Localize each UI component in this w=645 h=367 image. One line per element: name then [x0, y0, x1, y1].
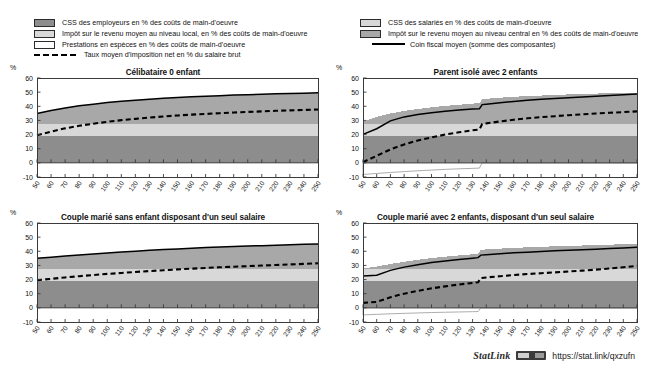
y-tick-label: 0: [355, 159, 359, 166]
x-tick-label: 110: [113, 324, 125, 337]
y-tick-label: -10: [349, 319, 359, 326]
x-tick-label: 190: [225, 179, 237, 192]
legend-label: Coin fiscal moyen (somme des composantes…: [410, 40, 645, 49]
panel-title: Couple marié avec 2 enfants, disposant d…: [326, 213, 645, 222]
x-tick-label: 200: [240, 179, 252, 192]
x-tick-label: 160: [183, 179, 195, 192]
x-tick-label: 160: [505, 324, 517, 337]
x-tick-label: 100: [423, 179, 435, 192]
y-tick-label: 40: [351, 248, 359, 255]
statlink-url[interactable]: https://stat.link/qxzufn: [552, 351, 635, 361]
y-tick-label: 20: [25, 276, 33, 283]
x-tick-label: 110: [113, 179, 125, 192]
x-tick-label: 80: [398, 179, 408, 189]
legend-item-net-tax-rate: Taux moyen d'imposition net en % du sala…: [34, 50, 334, 59]
x-tick-label: 120: [451, 179, 463, 192]
x-tick-label: 240: [615, 179, 627, 192]
x-tick-label: 140: [155, 179, 167, 192]
y-tick-label: 40: [25, 103, 33, 110]
x-tick-label: 170: [519, 324, 531, 337]
y-tick-label: 50: [25, 89, 33, 96]
x-tick-label: 130: [464, 324, 476, 337]
x-tick-label: 200: [240, 324, 252, 337]
y-tick-label: 20: [25, 131, 33, 138]
x-tick-label: 190: [225, 324, 237, 337]
x-tick-label: 170: [197, 179, 209, 192]
x-tick-label: 250: [629, 324, 641, 337]
x-tick-label: 140: [478, 324, 490, 337]
x-tick-label: 150: [492, 179, 504, 192]
panel-couple-marie-sans-enfant: % Couple marié sans enfant disposant d'u…: [0, 207, 326, 352]
x-tick-label: 180: [211, 179, 223, 192]
x-tick-label: 210: [254, 324, 266, 337]
y-tick-label: 30: [25, 262, 33, 269]
x-tick-label: 120: [451, 324, 463, 337]
x-tick-label: 60: [371, 179, 381, 189]
x-tick-label: 110: [437, 179, 449, 192]
x-tick-label: 150: [492, 324, 504, 337]
x-tick-label: 250: [310, 324, 322, 337]
panel-title: Parent isolé avec 2 enfants: [326, 68, 645, 77]
x-tick-label: 90: [87, 324, 97, 334]
x-tick-label: 220: [588, 179, 600, 192]
light-gray-swatch-icon: [360, 19, 381, 27]
x-tick-label: 230: [282, 324, 294, 337]
x-tick-label: 60: [45, 179, 55, 189]
x-tick-label: 50: [31, 324, 41, 334]
x-tick-label: 80: [73, 324, 83, 334]
chart-page: CSS des employeurs en % des coûts de mai…: [0, 0, 645, 367]
x-tick-label: 130: [464, 179, 476, 192]
area-band: [363, 269, 637, 281]
x-tick-label: 160: [505, 179, 517, 192]
y-tick-label: 50: [351, 89, 359, 96]
x-tick-label: 110: [437, 324, 449, 337]
x-tick-label: 160: [183, 324, 195, 337]
chart-svg: 6050403020100-10506070809010011012013014…: [0, 207, 326, 352]
x-tick-label: 140: [478, 179, 490, 192]
x-tick-label: 240: [296, 179, 308, 192]
statlink-label: StatLink: [473, 350, 510, 361]
x-tick-label: 90: [412, 179, 422, 189]
legend-item-employer-ssc: CSS des employeurs en % des coûts de mai…: [34, 18, 334, 27]
x-tick-label: 220: [588, 324, 600, 337]
x-tick-label: 210: [574, 324, 586, 337]
y-tick-label: 0: [355, 304, 359, 311]
x-tick-label: 250: [629, 179, 641, 192]
x-tick-label: 70: [384, 179, 394, 189]
x-tick-label: 210: [574, 179, 586, 192]
solid-line-icon: [360, 40, 405, 49]
legend-label: CSS des employeurs en % des coûts de mai…: [62, 18, 334, 27]
x-tick-label: 170: [197, 324, 209, 337]
legend-right: CSS des salariés en % des coûts de main-…: [360, 18, 645, 50]
legend-label: Impôt sur le revenu moyen au niveau loca…: [62, 29, 334, 38]
x-tick-label: 200: [560, 179, 572, 192]
y-tick-label: -10: [23, 319, 33, 326]
y-tick-label: 30: [351, 262, 359, 269]
x-tick-label: 190: [547, 324, 559, 337]
x-tick-label: 170: [519, 179, 531, 192]
x-tick-label: 100: [99, 179, 111, 192]
y-tick-label: 30: [25, 117, 33, 124]
statlink-footer: StatLink https://stat.link/qxzufn: [473, 350, 635, 361]
legend-item-tax-wedge: Coin fiscal moyen (somme des composantes…: [360, 40, 645, 49]
x-tick-label: 80: [398, 324, 408, 334]
x-tick-label: 130: [141, 324, 153, 337]
light-gray-swatch-icon: [34, 30, 55, 38]
panel-title: Couple marié sans enfant disposant d'un …: [0, 213, 326, 222]
area-band: [363, 136, 637, 163]
y-tick-label: -10: [23, 174, 33, 181]
x-tick-label: 70: [59, 179, 69, 189]
x-tick-label: 70: [384, 324, 394, 334]
x-tick-label: 180: [211, 324, 223, 337]
x-tick-label: 90: [87, 179, 97, 189]
y-tick-label: 20: [351, 276, 359, 283]
legend-item-cash-benefits: Prestations en espèces en % des coûts de…: [34, 40, 334, 49]
legend-item-employee-ssc: CSS des salariés en % des coûts de main-…: [360, 18, 645, 27]
y-tick-label: 0: [29, 304, 33, 311]
y-tick-label: 20: [351, 131, 359, 138]
x-tick-label: 230: [282, 179, 294, 192]
x-tick-label: 230: [601, 179, 613, 192]
x-tick-label: 50: [31, 179, 41, 189]
panel-parent-isole-2-enfants: % Parent isolé avec 2 enfants 6050403020…: [326, 62, 645, 207]
white-swatch-icon: [34, 41, 55, 49]
